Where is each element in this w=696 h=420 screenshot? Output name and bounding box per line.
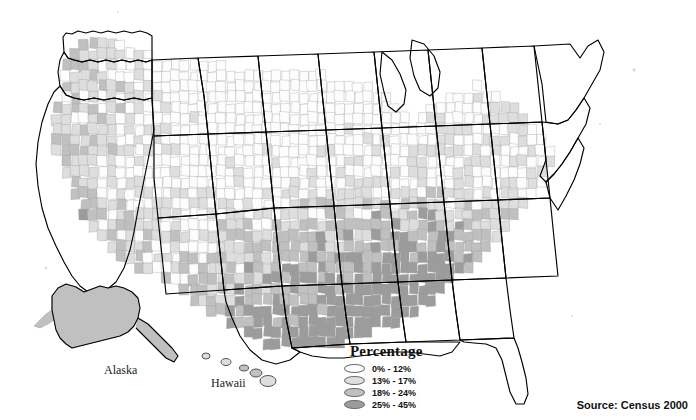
county-polygon <box>437 154 446 166</box>
county-polygon <box>428 231 437 242</box>
county-polygon <box>317 166 326 177</box>
legend-item: 13% - 17% <box>344 375 464 386</box>
county-polygon <box>136 144 145 156</box>
county-polygon <box>455 262 464 273</box>
county-polygon <box>381 229 391 241</box>
county-polygon <box>371 165 381 177</box>
legend-label: 13% - 17% <box>372 376 416 386</box>
county-polygon <box>299 134 309 145</box>
county-polygon <box>407 295 417 306</box>
county-polygon <box>362 306 372 317</box>
county-polygon <box>325 144 335 155</box>
county-polygon <box>361 187 371 199</box>
county-polygon <box>346 294 355 305</box>
county-polygon <box>500 168 509 179</box>
county-polygon <box>363 272 372 284</box>
county-polygon <box>252 219 262 230</box>
county-polygon <box>79 50 89 61</box>
county-polygon <box>326 221 335 232</box>
county-polygon <box>300 251 309 263</box>
county-polygon <box>108 188 117 199</box>
county-polygon <box>453 145 463 156</box>
county-polygon <box>325 231 335 242</box>
county-polygon <box>381 207 391 219</box>
county-polygon <box>161 133 171 145</box>
county-polygon <box>410 283 419 294</box>
county-polygon <box>245 156 254 167</box>
county-polygon <box>206 145 216 156</box>
county-polygon <box>306 154 316 166</box>
county-polygon <box>418 252 427 263</box>
county-polygon <box>116 81 125 92</box>
county-polygon <box>454 135 463 146</box>
county-polygon <box>299 305 308 316</box>
county-polygon <box>335 144 345 156</box>
county-polygon <box>391 317 400 329</box>
county-polygon <box>224 188 234 199</box>
county-polygon <box>217 134 226 145</box>
county-polygon <box>535 144 545 155</box>
map-legend: Percentage 0% - 12%13% - 17%18% - 24%25%… <box>344 343 464 411</box>
county-polygon <box>325 273 335 284</box>
county-polygon <box>337 167 346 178</box>
county-polygon <box>464 262 473 273</box>
county-polygon <box>343 317 353 328</box>
county-polygon <box>226 262 235 273</box>
county-polygon <box>501 208 510 219</box>
county-polygon <box>206 187 216 198</box>
county-polygon <box>306 336 316 348</box>
county-polygon <box>135 263 144 274</box>
county-polygon <box>407 262 417 273</box>
county-polygon <box>208 122 217 134</box>
county-polygon <box>279 146 289 157</box>
county-polygon <box>308 242 317 253</box>
county-polygon <box>162 198 171 209</box>
legend-item: 18% - 24% <box>344 387 464 398</box>
county-polygon <box>391 307 400 318</box>
county-polygon <box>108 124 117 135</box>
county-polygon <box>216 263 226 274</box>
county-polygon <box>144 187 153 198</box>
county-polygon <box>308 304 317 316</box>
county-polygon <box>117 178 126 189</box>
county-polygon <box>343 144 353 155</box>
county-polygon <box>62 114 71 125</box>
county-polygon <box>290 133 299 145</box>
county-polygon <box>492 231 501 242</box>
alaska-region <box>136 318 178 362</box>
county-polygon <box>51 144 61 156</box>
county-polygon <box>355 197 364 209</box>
county-polygon <box>517 154 527 166</box>
county-polygon <box>391 112 400 124</box>
county-polygon <box>261 218 271 230</box>
county-polygon <box>372 284 381 295</box>
county-polygon <box>526 168 536 180</box>
county-polygon <box>207 253 217 264</box>
county-polygon <box>465 175 474 187</box>
county-polygon <box>434 282 444 294</box>
county-polygon <box>382 293 391 305</box>
county-polygon <box>380 305 390 316</box>
county-polygon <box>354 306 363 317</box>
county-polygon <box>234 176 244 188</box>
county-polygon <box>334 90 344 102</box>
county-polygon <box>218 220 227 231</box>
county-polygon <box>270 82 280 93</box>
county-polygon <box>153 72 162 83</box>
county-polygon <box>501 101 510 112</box>
county-polygon <box>79 165 88 177</box>
county-polygon <box>226 208 235 220</box>
county-polygon <box>279 157 289 168</box>
county-polygon <box>199 154 208 166</box>
county-polygon <box>116 124 125 135</box>
county-polygon <box>243 218 253 230</box>
county-polygon <box>428 134 437 145</box>
county-polygon <box>125 103 134 114</box>
county-polygon <box>435 113 445 124</box>
county-polygon <box>143 263 153 274</box>
county-polygon <box>190 229 199 241</box>
county-polygon <box>70 72 80 83</box>
county-polygon <box>309 136 318 147</box>
county-polygon <box>190 295 199 306</box>
county-polygon <box>308 101 318 113</box>
